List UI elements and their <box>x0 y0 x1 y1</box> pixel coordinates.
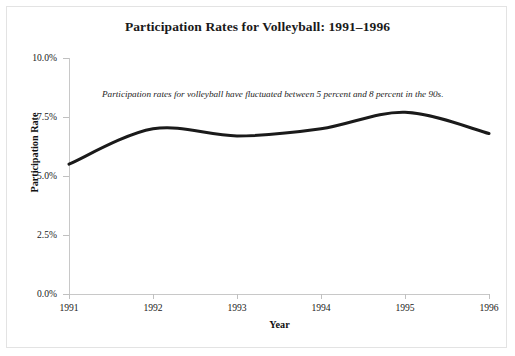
plot-area: 10.0% 7.5% 5.0% 2.5% 0.0% 1991 1992 1993… <box>7 7 508 349</box>
series-line-chart <box>7 7 508 349</box>
series-line-participation-rate <box>69 112 489 164</box>
chart-frame: Participation Rates for Volleyball: 1991… <box>6 6 507 348</box>
